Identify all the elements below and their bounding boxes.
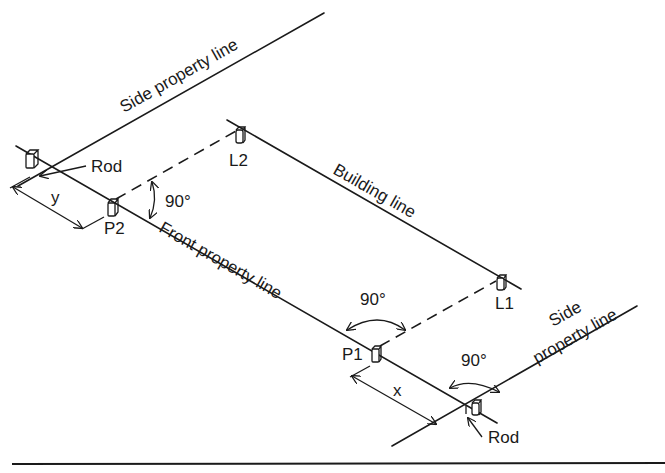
stake-l1-label: L1 (495, 294, 514, 313)
dimension-y-label: y (51, 188, 60, 207)
building-line-label: Building line (330, 160, 419, 222)
angle-p2-label: 90° (165, 192, 191, 211)
angle-arc-rod (450, 383, 499, 392)
stake-rod-top-icon (26, 150, 38, 168)
angle-rod-label: 90° (461, 351, 487, 370)
bottom-rule (12, 463, 665, 464)
rod-bottom-label: Rod (488, 428, 519, 447)
stake-l2-label: L2 (229, 151, 248, 170)
dimension-y-line (13, 187, 82, 228)
angle-arc-p2 (150, 182, 155, 218)
rod-top-leader (40, 166, 86, 176)
dimension-x-label: x (393, 381, 402, 400)
dimension-x-extension-left (350, 366, 370, 377)
building-layout-diagram: Side property line Front property line B… (0, 0, 665, 473)
dashed-line-p2-l2 (116, 131, 236, 199)
angle-p1-label: 90° (360, 290, 386, 309)
stake-p1-label: P1 (342, 345, 363, 364)
side-property-line-top-label: Side property line (117, 35, 242, 117)
dashed-line-p1-l1 (380, 281, 496, 346)
angle-arc-p1 (347, 320, 405, 330)
stake-p2-label: P2 (104, 219, 125, 238)
rod-top-label: Rod (91, 157, 122, 176)
stake-p1-icon (372, 346, 381, 362)
front-property-line-label: Front property line (156, 218, 285, 303)
rod-bottom-leader (468, 418, 482, 437)
dimension-y-extension-right (82, 217, 104, 229)
dimension-y-extension-left (10, 177, 30, 188)
side-property-line-top (18, 13, 324, 186)
building-line (227, 120, 521, 289)
stake-l2-icon (236, 127, 245, 143)
